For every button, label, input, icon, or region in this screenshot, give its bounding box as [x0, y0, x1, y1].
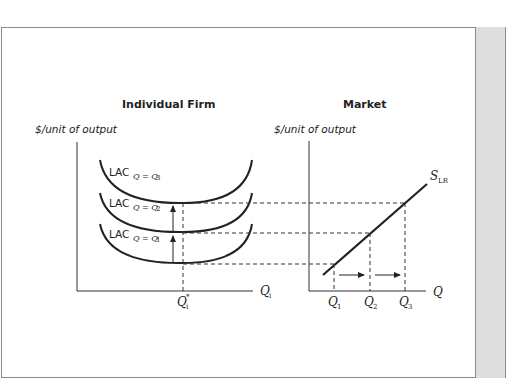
- svg-text:i: i: [269, 292, 272, 300]
- q-star-label: Q * i: [177, 293, 190, 311]
- svg-text:i: i: [186, 303, 189, 311]
- long-run-supply-curve: [323, 184, 427, 275]
- svg-text:Q = Q: Q = Q: [133, 172, 158, 181]
- y-axis-label-right: $/unit of output: [274, 123, 357, 135]
- lac-label-q2: LAC Q = Q 2: [109, 197, 160, 213]
- tick-q3: Q 3: [399, 295, 412, 311]
- x-axis-label-left: Q i: [260, 284, 272, 300]
- panel-title-individual-firm: Individual Firm: [122, 98, 215, 111]
- svg-text:LR: LR: [438, 177, 449, 185]
- svg-text:1: 1: [156, 236, 160, 244]
- svg-text:2: 2: [373, 303, 377, 311]
- svg-text:Q = Q: Q = Q: [133, 234, 158, 243]
- svg-text:2: 2: [156, 205, 160, 213]
- x-axis-label-right: Q: [433, 285, 443, 299]
- svg-text:*: *: [186, 293, 190, 301]
- panel-title-market: Market: [343, 98, 387, 111]
- supply-label: S LR: [430, 169, 449, 185]
- market-panel: Market $/unit of output S LR Q 1 Q 2 Q 3: [274, 98, 449, 311]
- individual-firm-panel: Individual Firm $/unit of output LAC Q =…: [35, 98, 272, 311]
- svg-text:3: 3: [156, 174, 160, 182]
- tick-q1: Q 1: [328, 295, 341, 311]
- svg-text:S: S: [430, 169, 438, 183]
- lac-label-q3: LAC Q = Q 3: [109, 166, 160, 182]
- svg-text:LAC: LAC: [109, 228, 129, 240]
- svg-text:1: 1: [337, 303, 341, 311]
- diagram: Individual Firm $/unit of output LAC Q =…: [0, 0, 532, 392]
- tick-q2: Q 2: [364, 295, 377, 311]
- svg-text:Q = Q: Q = Q: [133, 203, 158, 212]
- y-axis-label-left: $/unit of output: [35, 123, 118, 135]
- svg-text:LAC: LAC: [109, 166, 129, 178]
- svg-text:LAC: LAC: [109, 197, 129, 209]
- svg-text:3: 3: [408, 303, 412, 311]
